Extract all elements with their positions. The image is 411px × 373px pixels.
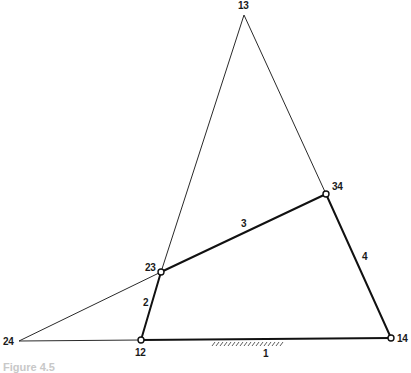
- node-label-24: 24: [3, 337, 14, 347]
- link-label-1: 1: [263, 349, 268, 359]
- construction-line-13-34: [244, 15, 326, 194]
- node-label-12: 12: [135, 348, 146, 358]
- node-label-13: 13: [238, 1, 249, 11]
- pin-joint-34: [323, 191, 329, 197]
- link-label-3: 3: [241, 219, 246, 229]
- pin-joint-23: [158, 269, 164, 275]
- ground-hatching: [212, 342, 283, 346]
- link-4-rocker: [326, 194, 391, 338]
- node-label-34: 34: [332, 182, 343, 192]
- construction-line-24-12: [19, 340, 141, 341]
- link-1-ground: [141, 338, 391, 340]
- link-label-4: 4: [362, 252, 367, 262]
- pin-joint-14: [388, 335, 394, 341]
- link-3-coupler: [161, 194, 326, 272]
- node-label-14: 14: [397, 334, 408, 344]
- pin-joint-12: [138, 337, 144, 343]
- link-label-2: 2: [143, 298, 148, 308]
- construction-line-13-23: [161, 15, 244, 272]
- node-label-23: 23: [145, 263, 156, 273]
- figure-caption: Figure 4.5: [3, 361, 55, 373]
- construction-line-24-23: [19, 272, 161, 341]
